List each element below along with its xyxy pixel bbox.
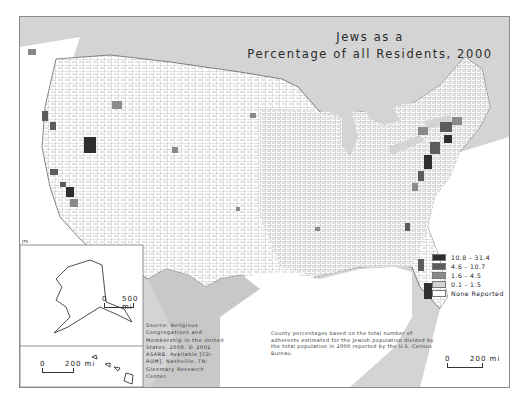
legend-swatch bbox=[432, 281, 446, 288]
legend-item: 1.6 - 4.5 bbox=[432, 271, 504, 280]
legend-item: None Reported bbox=[432, 289, 504, 298]
legend-item: 0.1 - 1.5 bbox=[432, 280, 504, 289]
legend-swatch bbox=[432, 272, 446, 279]
alaska-scale: 0 500 mi bbox=[102, 295, 142, 309]
legend-swatch bbox=[432, 290, 446, 297]
legend: 10.8 - 31.4 4.6 - 10.7 1.6 - 4.5 0.1 - 1… bbox=[432, 253, 504, 298]
legend-label: 10.8 - 31.4 bbox=[451, 254, 490, 261]
legend-label: 4.6 - 10.7 bbox=[451, 263, 486, 270]
title-line-1: Jews as a bbox=[220, 29, 510, 46]
legend-label: None Reported bbox=[451, 290, 504, 297]
map-title: Jews as a Percentage of all Residents, 2… bbox=[220, 29, 510, 63]
legend-item: 4.6 - 10.7 bbox=[432, 262, 504, 271]
source-note: Source: Religious Congregations and Memb… bbox=[146, 322, 226, 380]
legend-item: 10.8 - 31.4 bbox=[432, 253, 504, 262]
map-frame: Jews as a Percentage of all Residents, 2… bbox=[19, 16, 510, 388]
title-line-2: Percentage of all Residents, 2000 bbox=[220, 46, 510, 63]
conus-scale: 0 200 mi bbox=[445, 355, 505, 369]
legend-swatch bbox=[432, 263, 446, 270]
legend-label: 1.6 - 4.5 bbox=[451, 272, 481, 279]
legend-label: 0.1 - 1.5 bbox=[451, 281, 481, 288]
hawaii-scale: 0 200 mi bbox=[40, 360, 100, 374]
author-initials: JTS bbox=[22, 239, 28, 244]
legend-swatch bbox=[432, 254, 446, 261]
method-note: County percentages based on the total nu… bbox=[271, 330, 441, 356]
